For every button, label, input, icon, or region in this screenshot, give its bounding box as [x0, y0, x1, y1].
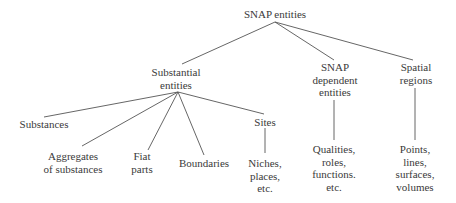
node-label: entities [312, 86, 357, 99]
node-label: of substances [44, 163, 103, 176]
edge-snap-to-dependent [275, 22, 334, 60]
node-label: Substances [20, 118, 69, 131]
node-label: Niches, [248, 157, 281, 170]
node-niches-places: Niches, places, etc. [248, 157, 281, 195]
node-snap-entities: SNAP entities [244, 8, 306, 21]
node-label: Boundaries [179, 157, 229, 170]
node-label: Fiat [131, 150, 152, 163]
node-boundaries: Boundaries [179, 157, 229, 170]
node-label: SNAP entities [244, 8, 306, 21]
node-label: dependent [312, 74, 357, 87]
node-snap-dependent-entities: SNAP dependent entities [312, 61, 357, 99]
node-label: surfaces, [396, 168, 435, 181]
node-label: Aggregates [44, 150, 103, 163]
node-label: etc. [248, 182, 281, 195]
node-label: parts [131, 163, 152, 176]
node-qualities-roles: Qualities, roles, functions. etc. [312, 143, 356, 193]
node-label: roles, [312, 156, 356, 169]
snap-ontology-diagram: SNAP entities Substantial entities SNAP … [0, 0, 456, 203]
edge-substantial-to-boundaries [178, 92, 204, 155]
node-label: volumes [396, 181, 435, 194]
node-label: Points, [396, 143, 435, 156]
node-label: etc. [312, 181, 356, 194]
edge-substantial-to-substances [44, 92, 178, 117]
node-aggregates-of-substances: Aggregates of substances [44, 150, 103, 175]
node-points-lines: Points, lines, surfaces, volumes [396, 143, 435, 193]
node-label: functions. [312, 168, 356, 181]
node-label: entities [152, 79, 201, 92]
edge-substantial-to-sites [178, 92, 264, 114]
node-spatial-regions: Spatial regions [400, 61, 432, 86]
node-label: Substantial [152, 66, 201, 79]
node-label: SNAP [312, 61, 357, 74]
node-sites: Sites [254, 116, 275, 129]
node-label: lines, [396, 156, 435, 169]
node-label: places, [248, 170, 281, 183]
edge-snap-to-spatial [275, 22, 413, 60]
edge-snap-to-substantial [182, 22, 275, 64]
node-label: regions [400, 74, 432, 87]
node-label: Sites [254, 116, 275, 129]
node-substances: Substances [20, 118, 69, 131]
node-label: Spatial [400, 61, 432, 74]
node-fiat-parts: Fiat parts [131, 150, 152, 175]
node-label: Qualities, [312, 143, 356, 156]
node-substantial-entities: Substantial entities [152, 66, 201, 91]
